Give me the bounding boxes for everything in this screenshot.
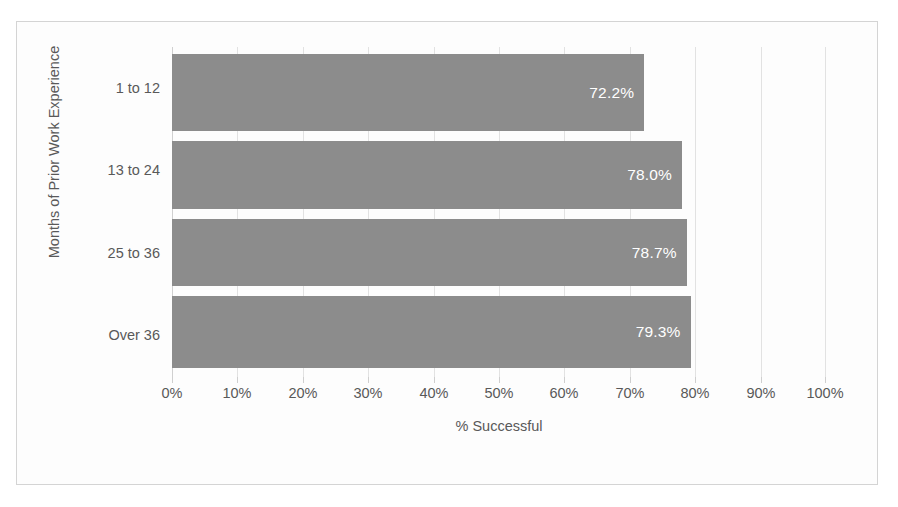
gridline-90 [761,47,762,377]
bar[interactable]: 72.2% [172,54,644,131]
tick-mark [303,377,304,383]
x-axis-tick-label: 100% [806,385,843,401]
bar-value-label: 72.2% [589,84,644,102]
x-axis-tick-label: 20% [288,385,317,401]
tick-mark [368,377,369,383]
x-axis-tick-label: 70% [615,385,644,401]
tick-mark [172,377,173,383]
x-axis-tick-label-group: 0% 10% 20% 30% 40% 50% 60% 70% 80% 90% 1… [172,385,826,409]
tick-mark [434,377,435,383]
category-label: 1 to 12 [116,80,160,96]
x-axis-tick-label: 60% [549,385,578,401]
x-axis-tick-label: 90% [746,385,775,401]
x-axis-tick-label: 80% [680,385,709,401]
tick-mark [237,377,238,383]
x-axis-tick-label: 10% [222,385,251,401]
gridline-100 [825,47,826,377]
bar-value-label: 78.7% [632,244,687,262]
tick-mark [695,377,696,383]
bar-value-label: 78.0% [627,166,682,184]
category-label: 13 to 24 [108,162,160,178]
chart-frame: Months of Prior Work Experience 1 to 12 … [16,21,878,485]
tick-mark [630,377,631,383]
bar[interactable]: 78.7% [172,219,687,286]
category-label: 25 to 36 [108,245,160,261]
tick-mark [564,377,565,383]
x-axis-tick-label: 40% [419,385,448,401]
bar[interactable]: 79.3% [172,296,691,368]
tick-mark [761,377,762,383]
tick-mark [825,377,826,383]
gridline-80 [695,47,696,377]
category-label-group: 1 to 12 13 to 24 25 to 36 Over 36 [17,47,172,377]
bar[interactable]: 78.0% [172,141,682,209]
tick-mark [499,377,500,383]
x-axis-tick-label: 30% [353,385,382,401]
category-label: Over 36 [108,327,160,343]
x-axis-tick-label: 50% [484,385,513,401]
x-axis-title: % Successful [172,418,826,434]
bar-value-label: 79.3% [636,323,691,341]
plot-area: 72.2% 78.0% 78.7% 79.3% [172,47,826,377]
x-axis-tick-label: 0% [162,385,183,401]
